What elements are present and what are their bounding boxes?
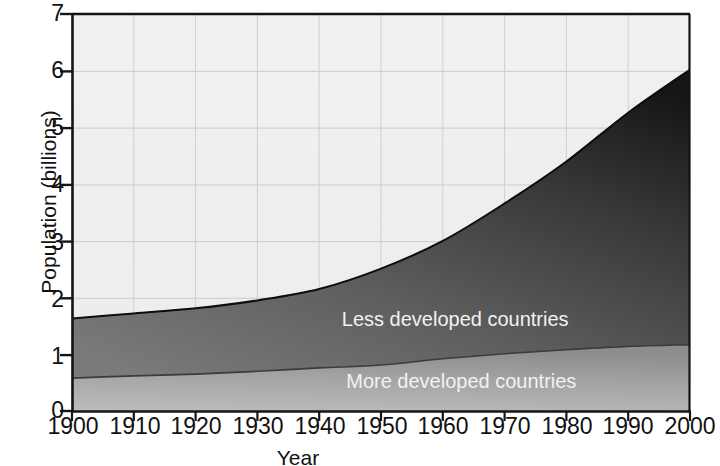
y-tick-marks	[60, 14, 72, 411]
series-label-more-developed: More developed countries	[346, 370, 576, 392]
series-label-less-developed: Less developed countries	[342, 308, 569, 330]
